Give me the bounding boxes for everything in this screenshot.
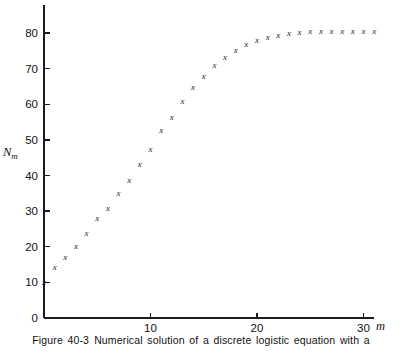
x-axis-label: m	[376, 319, 385, 334]
data-point-marker: x	[73, 241, 78, 251]
data-point-marker: x	[52, 262, 57, 272]
data-point-marker: x	[297, 27, 302, 37]
chart-plot-area: xxxxxxxxxxxxxxxxxxxxxxxxxxxxxxxx 0102030…	[0, 0, 402, 330]
data-point-marker: x	[62, 252, 67, 262]
figure-container: xxxxxxxxxxxxxxxxxxxxxxxxxxxxxxxx 0102030…	[0, 0, 402, 353]
y-tick-label-20: 20	[25, 241, 38, 253]
data-point-marker: x	[371, 26, 376, 36]
data-point-marker: x	[318, 26, 323, 36]
data-point-marker: x	[94, 213, 99, 223]
data-point-marker: x	[169, 112, 174, 122]
data-point-marker: x	[84, 228, 89, 238]
y-tick-label-50: 50	[25, 134, 38, 146]
data-point-marker: x	[329, 26, 334, 36]
data-point-marker: x	[243, 39, 248, 49]
data-point-marker: x	[254, 35, 259, 45]
data-point-marker: x	[339, 26, 344, 36]
data-point-marker: x	[361, 26, 366, 36]
data-point-marker: x	[105, 203, 110, 213]
figure-caption-text: Numerical solution of a discrete logisti…	[94, 334, 370, 346]
chart-data-points: xxxxxxxxxxxxxxxxxxxxxxxxxxxxxxxx	[41, 26, 376, 287]
data-point-marker: x	[286, 28, 291, 38]
data-point-marker: x	[222, 52, 227, 62]
figure-caption: Figure 40-3Numerical solution of a discr…	[0, 334, 402, 346]
data-point-marker: x	[307, 26, 312, 36]
figure-number: Figure 40-3	[32, 334, 89, 346]
data-point-marker: x	[126, 175, 131, 185]
data-point-marker: x	[190, 82, 195, 92]
data-point-marker: x	[201, 71, 206, 81]
data-point-marker: x	[275, 30, 280, 40]
data-point-marker: x	[148, 144, 153, 154]
y-tick-label-70: 70	[25, 63, 38, 75]
y-axis-label-subscript: m	[11, 151, 18, 161]
data-point-marker: x	[179, 96, 184, 106]
chart-axes	[44, 5, 374, 318]
data-point-marker: x	[116, 188, 121, 198]
data-point-marker: x	[350, 26, 355, 36]
chart-svg: xxxxxxxxxxxxxxxxxxxxxxxxxxxxxxxx	[0, 0, 402, 330]
data-point-marker: x	[233, 45, 238, 55]
x-tick-label-20: 20	[251, 322, 264, 334]
data-point-marker: x	[158, 125, 163, 135]
x-tick-label-10: 10	[144, 322, 157, 334]
y-tick-label-60: 60	[25, 98, 38, 110]
data-point-marker: x	[265, 32, 270, 42]
data-point-marker: x	[41, 277, 46, 287]
data-point-marker: x	[137, 159, 142, 169]
y-tick-label-10: 10	[25, 276, 38, 288]
y-tick-label-0: 0	[32, 312, 38, 324]
data-point-marker: x	[211, 60, 216, 70]
y-axis-label: Nm	[3, 145, 18, 160]
x-tick-label-30: 30	[357, 322, 370, 334]
y-tick-label-80: 80	[25, 27, 38, 39]
y-tick-label-30: 30	[25, 205, 38, 217]
y-tick-label-40: 40	[25, 170, 38, 182]
